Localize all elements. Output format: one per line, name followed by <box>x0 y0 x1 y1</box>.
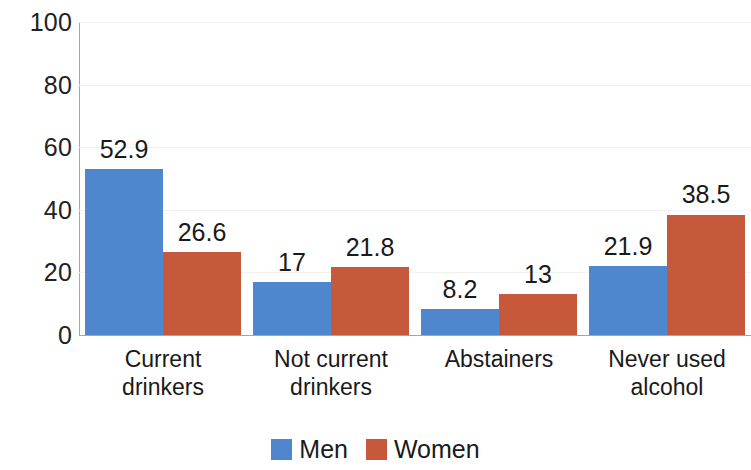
bar-women-2 <box>331 267 409 335</box>
x-axis-label-2: Not currentdrinkers <box>247 345 415 401</box>
gridline-60 <box>79 147 751 148</box>
chart-legend: MenWomen <box>0 437 751 462</box>
x-axis-label-line2: alcohol <box>583 373 751 401</box>
x-axis-label-line1: Current <box>79 345 247 373</box>
bar-men-1 <box>85 169 163 335</box>
bar-value-label-women-4: 38.5 <box>667 182 745 207</box>
bar-value-label-men-1: 52.9 <box>85 137 163 162</box>
legend-label-women: Women <box>394 437 480 462</box>
y-axis-tick-20: 20 <box>4 260 72 285</box>
x-axis-label-4: Never usedalcohol <box>583 345 751 401</box>
bar-women-3 <box>499 294 577 335</box>
x-axis-label-line1: Not current <box>247 345 415 373</box>
plot-area <box>79 22 751 335</box>
gridline-100 <box>79 22 751 23</box>
x-axis-label-line1: Never used <box>583 345 751 373</box>
bar-value-label-women-3: 13 <box>499 262 577 287</box>
legend-item-men[interactable]: Men <box>271 437 348 462</box>
y-axis-tick-0: 0 <box>4 323 72 348</box>
gridline-80 <box>79 85 751 86</box>
y-axis-tick-60: 60 <box>4 135 72 160</box>
bar-value-label-men-2: 17 <box>253 250 331 275</box>
bar-men-3 <box>421 309 499 335</box>
x-axis-label-line1: Abstainers <box>415 345 583 373</box>
y-axis-tick-labels: 100806040200 <box>0 0 72 470</box>
bar-value-label-men-3: 8.2 <box>421 277 499 302</box>
bar-women-1 <box>163 252 241 335</box>
x-axis-label-3: Abstainers <box>415 345 583 373</box>
y-axis-tick-40: 40 <box>4 198 72 223</box>
bar-value-label-women-2: 21.8 <box>331 235 409 260</box>
bar-value-label-men-4: 21.9 <box>589 234 667 259</box>
x-axis-label-line2: drinkers <box>247 373 415 401</box>
y-axis-tick-80: 80 <box>4 73 72 98</box>
legend-label-men: Men <box>299 437 348 462</box>
bar-men-2 <box>253 282 331 335</box>
bar-value-label-women-1: 26.6 <box>163 220 241 245</box>
bar-men-4 <box>589 266 667 335</box>
y-axis-tick-100: 100 <box>4 10 72 35</box>
gridline-40 <box>79 210 751 211</box>
legend-item-women[interactable]: Women <box>366 437 480 462</box>
x-axis-label-1: Currentdrinkers <box>79 345 247 401</box>
women-swatch <box>366 439 387 460</box>
x-axis-category-labels: CurrentdrinkersNot currentdrinkersAbstai… <box>79 345 751 420</box>
men-swatch <box>271 439 292 460</box>
bar-chart: 100806040200 52.9178.221.926.621.81338.5… <box>0 0 751 470</box>
x-axis-label-line2: drinkers <box>79 373 247 401</box>
x-axis-line <box>79 335 751 336</box>
bar-women-4 <box>667 215 745 336</box>
